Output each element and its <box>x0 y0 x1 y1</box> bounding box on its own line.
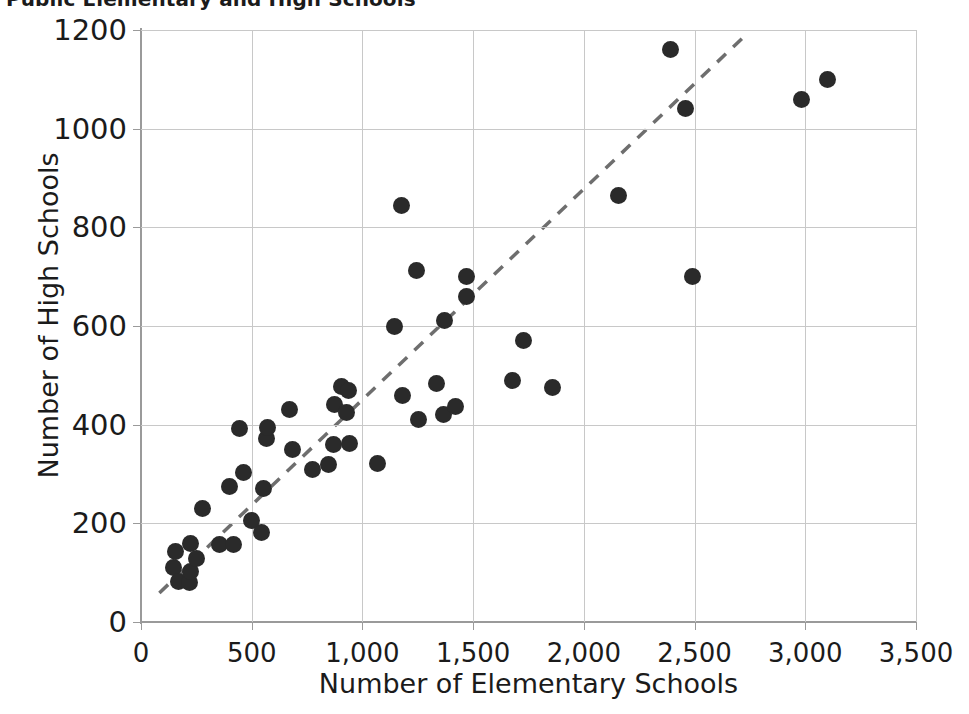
data-point <box>341 435 358 452</box>
x-axis-tick-label: 1,000 <box>325 638 399 668</box>
data-point <box>281 401 298 418</box>
data-point <box>194 500 211 517</box>
scatter-chart: Public Elementary and High Schools 02004… <box>0 0 969 714</box>
data-point <box>662 41 679 58</box>
data-point <box>255 480 272 497</box>
data-point <box>320 456 337 473</box>
data-point <box>436 312 453 329</box>
data-point <box>428 375 445 392</box>
data-point <box>393 197 410 214</box>
y-axis-tick <box>133 30 141 31</box>
gridline-vertical <box>916 30 917 622</box>
x-axis-tick <box>473 622 474 630</box>
x-axis-tick-label: 3,000 <box>768 638 842 668</box>
x-axis-tick-label: 1,500 <box>436 638 510 668</box>
x-axis-tick <box>805 622 806 630</box>
data-point <box>793 91 810 108</box>
y-axis-title: Number of High Schools <box>33 56 64 576</box>
y-axis-tick-label: 1200 <box>53 13 127 47</box>
gridline-horizontal <box>141 30 916 31</box>
data-point <box>369 455 386 472</box>
y-axis-tick-label: 400 <box>72 408 127 442</box>
data-point <box>259 419 276 436</box>
data-point <box>410 411 427 428</box>
plot-area: 02004006008001000120005001,0001,5002,000… <box>141 30 916 622</box>
gridline-vertical <box>362 30 363 622</box>
x-axis-tick <box>141 622 142 630</box>
y-axis-tick <box>133 622 141 623</box>
data-point <box>544 379 561 396</box>
data-point <box>458 288 475 305</box>
data-point <box>515 332 532 349</box>
x-axis-tick <box>695 622 696 630</box>
x-axis-tick-label: 2,500 <box>657 638 731 668</box>
x-axis-tick <box>916 622 917 630</box>
data-point <box>304 461 321 478</box>
y-axis-tick-label: 600 <box>72 309 127 343</box>
data-point <box>338 404 355 421</box>
data-point <box>504 372 521 389</box>
data-point <box>221 478 238 495</box>
x-axis-tick-label: 2,000 <box>547 638 621 668</box>
data-point <box>447 398 464 415</box>
data-point <box>253 524 270 541</box>
data-point <box>188 550 205 567</box>
y-axis-tick-label: 800 <box>72 210 127 244</box>
chart-title: Public Elementary and High Schools <box>6 0 416 11</box>
data-point <box>235 464 252 481</box>
y-axis-tick <box>133 523 141 524</box>
gridline-horizontal <box>141 326 916 327</box>
data-point <box>386 318 403 335</box>
y-axis-tick <box>133 425 141 426</box>
data-point <box>182 535 199 552</box>
x-axis-tick <box>252 622 253 630</box>
gridline-vertical <box>805 30 806 622</box>
x-axis-tick-label: 500 <box>227 638 277 668</box>
gridline-horizontal <box>141 227 916 228</box>
x-axis-tick-label: 0 <box>133 638 150 668</box>
y-axis-tick <box>133 129 141 130</box>
x-axis-tick-label: 3,500 <box>879 638 953 668</box>
gridline-horizontal <box>141 425 916 426</box>
y-axis-tick-label: 1000 <box>53 112 127 146</box>
data-point <box>394 387 411 404</box>
data-point <box>610 187 627 204</box>
data-point <box>408 262 425 279</box>
x-axis-title: Number of Elementary Schools <box>141 668 916 699</box>
data-point <box>677 100 694 117</box>
y-axis-tick <box>133 326 141 327</box>
y-axis-tick-label: 0 <box>109 605 127 639</box>
data-point <box>340 382 357 399</box>
gridline-vertical <box>695 30 696 622</box>
x-axis-tick <box>362 622 363 630</box>
gridline-vertical <box>473 30 474 622</box>
y-axis-tick-label: 200 <box>72 506 127 540</box>
data-point <box>225 536 242 553</box>
data-point <box>325 436 342 453</box>
gridline-vertical <box>584 30 585 622</box>
x-axis-tick <box>584 622 585 630</box>
y-axis-tick <box>133 227 141 228</box>
data-point <box>231 420 248 437</box>
gridline-horizontal <box>141 129 916 130</box>
data-point <box>819 71 836 88</box>
data-point <box>684 268 701 285</box>
data-point <box>284 441 301 458</box>
